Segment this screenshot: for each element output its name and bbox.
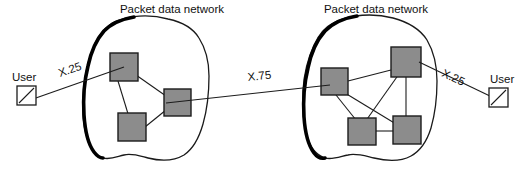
left-node-bottom <box>118 113 146 141</box>
left-access-label: X.25 <box>57 60 83 79</box>
right-node-top <box>391 47 421 77</box>
right-node-left <box>321 68 348 95</box>
right-cloud-title: Packet data network <box>324 3 428 15</box>
right-node-bottom-left <box>348 118 376 145</box>
left-user-label: User <box>12 71 36 83</box>
right-access-label: X.25 <box>440 67 467 88</box>
diagram-canvas: Packet data network Packet data network <box>0 0 526 174</box>
right-user-label: User <box>490 73 514 85</box>
packet-network-diagram: Packet data network Packet data network <box>0 0 526 174</box>
right-user-endpoint: User <box>489 73 514 107</box>
right-node-bottom-right <box>393 116 421 144</box>
inter-network-label: X.75 <box>247 69 272 83</box>
left-user-endpoint: User <box>12 71 36 105</box>
left-cloud-title: Packet data network <box>120 3 224 15</box>
